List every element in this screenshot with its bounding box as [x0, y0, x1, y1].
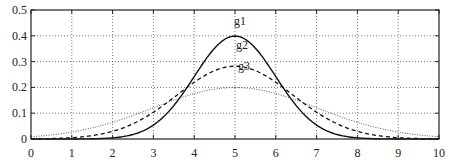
curves	[31, 36, 439, 139]
x-tick-label: 5	[232, 146, 238, 160]
y-tick-label: 0.1	[12, 106, 27, 120]
y-tick-label: 0.3	[12, 55, 27, 69]
plot-frame	[31, 10, 439, 139]
grid-lines	[31, 10, 439, 139]
x-axis-ticks: 012345678910	[28, 10, 445, 160]
curve-labels: g1 g2 g3	[234, 14, 250, 73]
y-axis-ticks: 00.10.20.30.40.5	[12, 3, 439, 146]
label-g3: g3	[238, 59, 250, 73]
x-tick-label: 10	[433, 146, 445, 160]
x-tick-label: 9	[395, 146, 401, 160]
y-tick-label: 0.4	[12, 29, 27, 43]
label-g1: g1	[234, 14, 246, 28]
label-g2: g2	[236, 38, 248, 52]
y-tick-label: 0.2	[12, 80, 27, 94]
x-tick-label: 7	[314, 146, 320, 160]
x-tick-label: 6	[273, 146, 279, 160]
x-tick-label: 1	[69, 146, 75, 160]
y-tick-label: 0.5	[12, 3, 27, 17]
x-tick-label: 4	[191, 146, 197, 160]
y-tick-label: 0	[21, 132, 27, 146]
chart: 012345678910 00.10.20.30.40.5 g1 g2 g3	[0, 0, 455, 167]
x-tick-label: 2	[110, 146, 116, 160]
x-tick-label: 0	[28, 146, 34, 160]
x-tick-label: 8	[354, 146, 360, 160]
x-tick-label: 3	[150, 146, 156, 160]
